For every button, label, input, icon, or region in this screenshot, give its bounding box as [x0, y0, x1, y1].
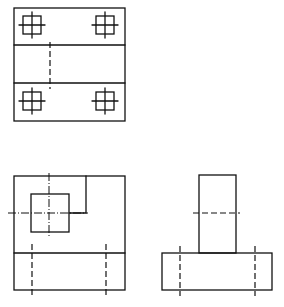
- side-view: [162, 175, 272, 296]
- hole-bottom-right: [92, 88, 118, 114]
- hole-top-left: [19, 12, 45, 38]
- top-view: [14, 8, 125, 121]
- hole-top-right: [92, 12, 118, 38]
- orthographic-drawing: [0, 0, 284, 307]
- front-view: [8, 173, 125, 296]
- hole-bottom-left: [19, 88, 45, 114]
